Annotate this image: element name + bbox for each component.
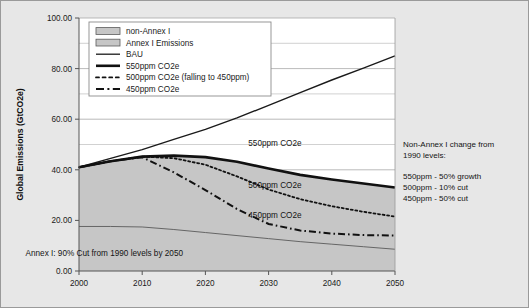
legend-label-5: 450ppm CO2e [126,85,180,94]
y-tick-label-100: 100.00 [47,14,72,23]
side-note-heading-line1: Non-Annex I change from [403,140,494,149]
emissions-chart: 0.0020.0040.0060.0080.00100.002000201020… [1,1,529,308]
side-note-line-1: 500ppm - 10% cut [403,183,469,192]
x-tick-label-2040: 2040 [323,279,342,288]
legend-marker-swatch-0 [96,28,120,35]
y-tick-label-60: 60.00 [52,115,73,124]
side-note-heading-line2: 1990 levels: [403,151,446,160]
legend-label-3: 550ppm CO2e [126,62,180,71]
label-annex-cut: Annex I: 90% Cut from 1990 levels by 205… [26,249,184,258]
side-note-line-0: 550ppm - 50% growth [403,172,481,181]
legend-label-4: 500ppm CO2e (falling to 450ppm) [126,73,250,82]
x-tick-label-2000: 2000 [70,279,89,288]
label-450: 450ppm CO2e [248,211,302,220]
side-note-line-2: 450ppm - 50% cut [403,194,469,203]
x-tick-label-2050: 2050 [386,279,405,288]
y-tick-label-40: 40.00 [52,166,73,175]
label-500: 500ppm CO2e [248,181,302,190]
chart-figure: 0.0020.0040.0060.0080.00100.002000201020… [0,0,529,308]
legend-label-2: BAU [126,50,143,59]
x-tick-label-2010: 2010 [133,279,152,288]
y-tick-label-20: 20.00 [52,216,73,225]
x-tick-label-2030: 2030 [259,279,278,288]
y-tick-label-80: 80.00 [52,65,73,74]
label-550: 550ppm CO2e [248,139,302,148]
y-tick-label-0: 0.00 [56,267,72,276]
legend-label-0: non-Annex I [126,27,170,36]
y-axis-title: Global Emissions (GtCO2e) [15,88,25,200]
legend-label-1: Annex I Emissions [126,39,193,48]
legend-marker-swatch-1 [96,39,120,46]
x-tick-label-2020: 2020 [196,279,215,288]
